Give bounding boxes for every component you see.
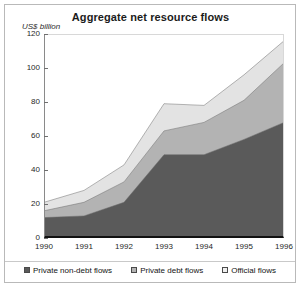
legend-label: Private debt flows [140,266,203,275]
plot-frame [44,34,284,238]
y-tick-mark [44,204,48,205]
y-tick-label: 120 [6,30,40,38]
y-tick-mark [44,136,48,137]
x-tick-label: 1996 [275,242,293,251]
x-tick-label: 1992 [115,242,133,251]
y-tick-mark [44,170,48,171]
x-tick-label: 1990 [35,242,53,251]
chart-legend: Private non-debt flowsPrivate debt flows… [5,261,295,277]
legend-item[interactable]: Official flows [222,266,276,275]
x-axis-tick-labels: 1990199119921993199419951996 [44,242,284,254]
x-tick-label: 1991 [75,242,93,251]
legend-item[interactable]: Private debt flows [131,266,203,275]
plot-area [44,34,284,238]
x-tick-label: 1995 [235,242,253,251]
y-tick-mark [44,34,48,35]
legend-swatch-icon [131,267,137,273]
chart-figure: Aggregate net resource flows US$ billion… [0,0,301,288]
y-axis-tick-labels: 120100806040200 [0,34,40,238]
legend-label: Official flows [231,266,276,275]
legend-swatch-icon [24,267,30,273]
y-tick-label: 60 [6,132,40,140]
y-tick-mark [44,68,48,69]
y-tick-mark [44,102,48,103]
y-tick-label: 40 [6,166,40,174]
x-tick-label: 1994 [195,242,213,251]
legend-label: Private non-debt flows [33,266,112,275]
y-tick-label: 0 [6,234,40,242]
y-tick-mark [44,238,48,239]
x-tick-label: 1993 [155,242,173,251]
y-tick-label: 80 [6,98,40,106]
y-tick-label: 20 [6,200,40,208]
legend-swatch-icon [222,267,228,273]
legend-item[interactable]: Private non-debt flows [24,266,112,275]
y-tick-label: 100 [6,64,40,72]
